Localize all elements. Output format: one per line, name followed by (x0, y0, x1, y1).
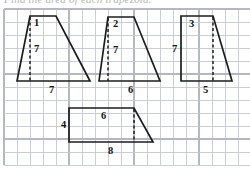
trapezoid-3-top-base-label: 3 (189, 18, 194, 29)
header-fragment-text: Find the area of each trapezoid. (4, 0, 152, 5)
trapezoid-1-height-label: 7 (34, 43, 39, 54)
trapezoid-4-top-base-label: 6 (101, 110, 106, 121)
trapezoid-2-bottom-base-label: 6 (128, 84, 133, 95)
trapezoid-4-left-side-label: 4 (61, 119, 67, 130)
cropped-header-text: Find the area of each trapezoid. (0, 0, 250, 9)
trapezoid-1-bottom-base-label: 7 (49, 84, 54, 95)
trapezoid-1 (17, 16, 90, 81)
figures-svg: 177276375468 (0, 0, 250, 172)
worksheet-canvas: 177276375468 Find the area of each trape… (0, 0, 250, 172)
trapezoid-4-bottom-base-label: 8 (108, 145, 113, 156)
trapezoid-2-top-base-label: 2 (113, 18, 118, 29)
trapezoid-3-height-label: 7 (172, 43, 177, 54)
trapezoid-3-bottom-base-label: 5 (203, 84, 208, 95)
trapezoid-1-top-base-label: 1 (34, 17, 39, 28)
trapezoid-2-height-label: 7 (113, 44, 118, 55)
